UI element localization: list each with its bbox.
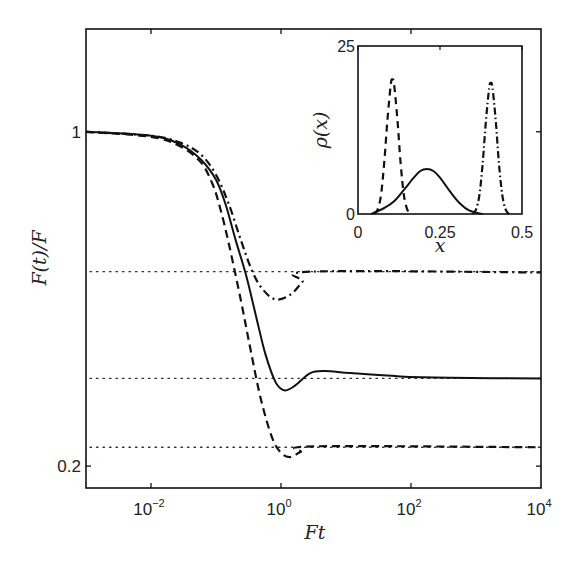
inset-x-tick-label: 0 <box>354 224 363 241</box>
x-tick-label: 100 <box>266 497 291 519</box>
x-tick-label: 102 <box>396 497 421 519</box>
y-tick-label: 1 <box>72 123 81 142</box>
inset-y-axis-label: ρ(x) <box>309 112 331 150</box>
x-axis-label: Ft <box>304 521 326 543</box>
y-axis-label: F(t)/F <box>28 230 50 287</box>
inset-y-tick-label: 0 <box>346 206 355 223</box>
x-tick-label: 104 <box>526 497 551 519</box>
y-tick-label: 0.2 <box>57 457 81 476</box>
figure: 10−210010210410.2 Ft F(t)/F 00.250.5025 … <box>0 0 582 569</box>
x-tick-label: 10−2 <box>133 497 164 519</box>
inset-y-tick-label: 25 <box>337 38 355 55</box>
reference-lines <box>90 272 541 448</box>
inset-x-axis-label: x <box>435 234 446 256</box>
inset-x-tick-label: 0.5 <box>511 224 533 241</box>
